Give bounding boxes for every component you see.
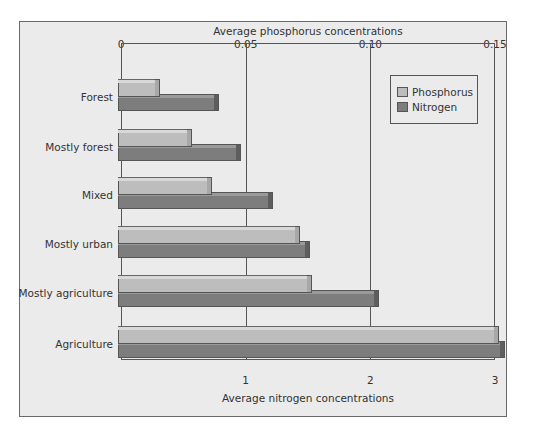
phosphorus-bar <box>118 229 296 244</box>
category-label: Mixed <box>82 189 113 201</box>
phosphorus-bar <box>118 82 156 97</box>
phosphorus-bar <box>118 132 188 147</box>
nitrogen-bar <box>118 344 501 358</box>
bottom-tick-label: 3 <box>492 374 499 386</box>
category-label: Mostly agriculture <box>18 287 113 299</box>
nitrogen-bar <box>118 195 269 209</box>
bottom-axis-title: Average nitrogen concentrations <box>222 392 394 404</box>
nitrogen-bar <box>118 244 306 258</box>
category-label: Mostly forest <box>45 141 113 153</box>
nitrogen-bar <box>118 147 237 161</box>
top-axis-title: Average phosphorus concentrations <box>213 25 402 37</box>
legend-label: Nitrogen <box>412 101 457 113</box>
phosphorus-bar <box>118 329 495 344</box>
legend-item-phosphorus: Phosphorus <box>397 85 473 99</box>
nitrogen-bar <box>118 293 375 307</box>
legend-item-nitrogen: Nitrogen <box>397 100 457 114</box>
category-label: Forest <box>81 91 113 103</box>
category-label: Mostly urban <box>45 238 113 250</box>
bottom-tick-label: 1 <box>242 374 249 386</box>
bottom-tick-label: 2 <box>367 374 374 386</box>
legend-label: Phosphorus <box>412 86 473 98</box>
legend: Phosphorus Nitrogen <box>390 75 478 124</box>
nitrogen-bar <box>118 97 215 111</box>
nitrogen-swatch-icon <box>397 102 408 112</box>
category-label: Agriculture <box>55 338 113 350</box>
phosphorus-bar <box>118 278 308 293</box>
phosphorus-bar <box>118 180 208 195</box>
phosphorus-swatch-icon <box>397 87 408 97</box>
